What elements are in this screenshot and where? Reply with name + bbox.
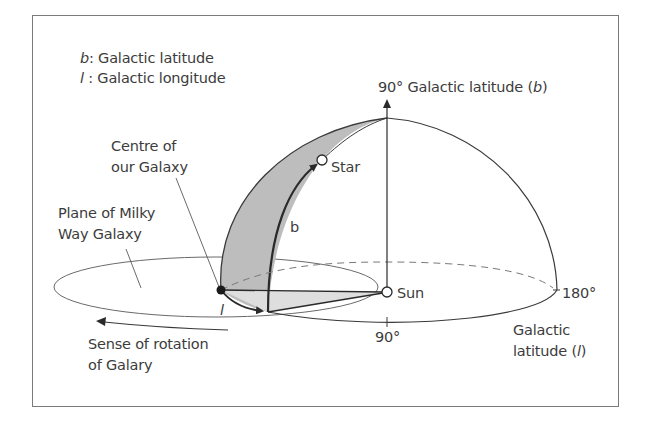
rotation-arrow-head xyxy=(96,317,106,326)
hemisphere-outline xyxy=(387,118,557,290)
sun-label: Sun xyxy=(397,283,424,303)
legend-l: l : Galactic longitude xyxy=(80,68,225,88)
longitude-label-line2: latitude (l) xyxy=(513,341,586,361)
zenith-label-suffix: ) xyxy=(542,79,547,95)
star-label: Star xyxy=(331,157,360,177)
legend-l-text: : Galactic longitude xyxy=(84,70,226,86)
longitude-label-prefix: latitude ( xyxy=(513,343,577,359)
deg-90-label: 90° xyxy=(375,327,400,347)
plane-label-line1: Plane of Milky xyxy=(58,203,155,223)
star-marker xyxy=(317,155,327,165)
zenith-label-symbol: b xyxy=(533,79,542,95)
centre-leader-line xyxy=(176,178,219,287)
galactic-centre-dot xyxy=(217,286,226,295)
legend-b-symbol: b xyxy=(80,50,89,66)
sun-marker xyxy=(382,287,392,297)
rotation-label-line1: Sense of rotation xyxy=(88,334,208,354)
centre-label-line2: our Galaxy xyxy=(111,157,188,177)
centre-label-line1: Centre of xyxy=(111,136,176,156)
l-arc-label: l xyxy=(220,300,224,320)
legend-b-text: : Galactic latitude xyxy=(89,50,214,66)
plane-leader-line xyxy=(126,249,141,288)
zenith-label-prefix: 90° Galactic latitude ( xyxy=(378,79,533,95)
longitude-band-shade xyxy=(221,118,387,312)
plane-label-line2: Way Galaxy xyxy=(58,224,142,244)
b-arc-label: b xyxy=(290,217,299,237)
rotation-label-line2: of Galary xyxy=(88,355,152,375)
legend-b: b: Galactic latitude xyxy=(80,48,214,68)
plane-triangle-shade xyxy=(221,290,387,312)
galaxy-plane-ellipse xyxy=(54,257,378,317)
deg-180-label: 180° xyxy=(562,283,596,303)
longitude-label-line1: Galactic xyxy=(513,320,570,340)
zenith-label: 90° Galactic latitude (b) xyxy=(378,77,547,97)
zenith-arrow-head xyxy=(383,99,391,108)
longitude-label-suffix: ) xyxy=(581,343,586,359)
rotation-arrow xyxy=(104,322,228,330)
